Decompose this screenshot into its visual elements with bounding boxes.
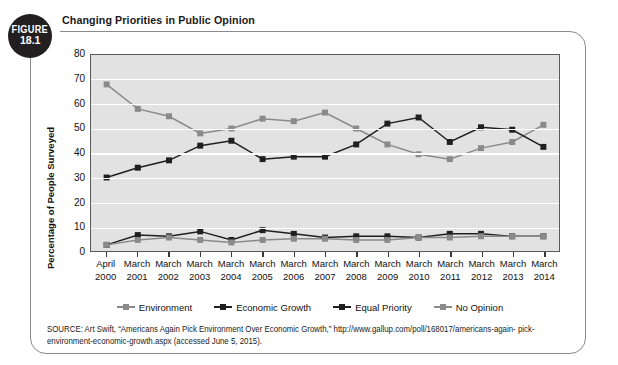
legend-label: Economic Growth <box>236 302 311 313</box>
data-point-marker <box>291 236 297 242</box>
gridline <box>91 203 559 204</box>
data-point-marker <box>260 116 266 122</box>
chart-legend: EnvironmentEconomic GrowthEqual Priority… <box>40 298 580 316</box>
data-point-marker <box>166 113 172 119</box>
data-point-marker <box>384 237 390 243</box>
data-point-marker <box>416 115 422 121</box>
data-point-marker <box>197 130 203 136</box>
legend-label: No Opinion <box>456 302 504 313</box>
y-axis-label-text: Percentage of People Surveyed <box>45 127 56 269</box>
y-tick-80: 80 <box>74 49 85 59</box>
y-tick-40: 40 <box>74 148 85 158</box>
data-point-marker <box>478 145 484 151</box>
legend-label: Environment <box>139 302 192 313</box>
data-point-marker <box>166 157 172 163</box>
data-point-marker <box>197 143 203 149</box>
legend-item-economic-growth[interactable]: Economic Growth <box>214 302 311 313</box>
data-point-marker <box>135 237 141 243</box>
y-axis-label: Percentage of People Surveyed <box>42 108 58 288</box>
x-tick-mark <box>388 252 389 257</box>
y-tick-60: 60 <box>74 99 85 109</box>
gridline <box>91 228 559 229</box>
gridline <box>91 178 559 179</box>
legend-marker-icon <box>117 302 135 312</box>
x-tick-year: 2014 <box>521 271 567 284</box>
figure-title: Changing Priorities in Public Opinion <box>62 14 255 26</box>
x-tick-mark <box>419 252 420 257</box>
data-point-marker <box>353 237 359 243</box>
data-point-marker <box>384 141 390 147</box>
plot-area <box>90 54 560 252</box>
gridline <box>91 104 559 105</box>
legend-item-no-opinion[interactable]: No Opinion <box>434 302 504 313</box>
figure-badge-number: 18.1 <box>20 35 41 47</box>
data-point-marker <box>322 110 328 116</box>
data-point-marker <box>291 118 297 124</box>
data-point-marker <box>260 237 266 243</box>
series-environment <box>104 81 547 162</box>
data-point-marker <box>447 156 453 162</box>
x-tick-mark <box>262 252 263 257</box>
data-point-marker <box>478 233 484 239</box>
legend-item-equal-priority[interactable]: Equal Priority <box>333 302 412 313</box>
data-point-marker <box>509 233 515 239</box>
data-point-marker <box>228 138 234 144</box>
data-point-marker <box>228 239 234 245</box>
x-tick-mark <box>231 252 232 257</box>
chart-container: Percentage of People Surveyed 0102030405… <box>40 48 580 298</box>
x-tick-mark <box>137 252 138 257</box>
figure-number-badge: FIGURE 18.1 <box>8 14 52 58</box>
data-point-marker <box>104 242 110 248</box>
gridline <box>91 79 559 80</box>
series-line <box>107 84 544 159</box>
gridline <box>91 129 559 130</box>
x-axis-tick-labels: April2000March2001March2002March2003Marc… <box>90 258 560 292</box>
legend-marker-icon <box>333 302 351 312</box>
data-point-marker <box>104 81 110 87</box>
gridline <box>91 153 559 154</box>
x-tick-mark <box>294 252 295 257</box>
data-point-marker <box>353 141 359 147</box>
legend-marker-icon <box>214 302 232 312</box>
x-tick-label: March2014 <box>521 258 567 283</box>
x-tick-mark <box>482 252 483 257</box>
legend-marker-icon <box>434 302 452 312</box>
x-tick-month: March <box>521 258 567 271</box>
y-tick-0: 0 <box>79 247 85 257</box>
data-point-marker <box>509 139 515 145</box>
y-tick-10: 10 <box>74 222 85 232</box>
source-line-1: SOURCE: Art Swift, “Americans Again Pick… <box>47 325 516 334</box>
x-tick-mark <box>325 252 326 257</box>
x-tick-mark <box>200 252 201 257</box>
data-point-marker <box>447 235 453 241</box>
legend-label: Equal Priority <box>355 302 412 313</box>
data-point-marker <box>447 139 453 145</box>
x-tick-mark <box>544 252 545 257</box>
data-point-marker <box>197 237 203 243</box>
data-point-marker <box>135 106 141 112</box>
data-point-marker <box>384 121 390 127</box>
source-note: SOURCE: Art Swift, “Americans Again Pick… <box>47 324 551 347</box>
x-tick-mark <box>168 252 169 257</box>
x-tick-mark <box>106 252 107 257</box>
data-point-marker <box>540 233 546 239</box>
y-tick-20: 20 <box>74 198 85 208</box>
data-point-marker <box>540 144 546 150</box>
y-axis-tick-labels: 01020304050607080 <box>58 48 88 258</box>
legend-item-environment[interactable]: Environment <box>117 302 192 313</box>
data-point-marker <box>322 236 328 242</box>
data-point-marker <box>260 156 266 162</box>
x-tick-mark <box>513 252 514 257</box>
data-point-marker <box>416 235 422 241</box>
data-point-marker <box>540 122 546 128</box>
y-tick-70: 70 <box>74 74 85 84</box>
data-point-marker <box>135 165 141 171</box>
y-tick-50: 50 <box>74 123 85 133</box>
data-point-marker <box>166 235 172 241</box>
series-line <box>107 117 544 177</box>
y-tick-30: 30 <box>74 173 85 183</box>
data-point-marker <box>197 228 203 234</box>
x-tick-mark <box>450 252 451 257</box>
x-tick-mark <box>356 252 357 257</box>
